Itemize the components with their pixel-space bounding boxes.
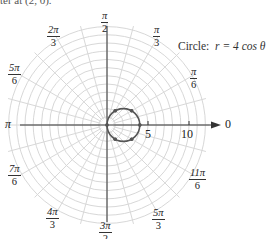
angle-label-3pi-2: 3π2 — [99, 220, 112, 239]
angle-label-pi: π — [5, 118, 11, 130]
data-point — [114, 138, 117, 141]
arrow-right-icon — [211, 122, 221, 129]
polar-plot — [0, 0, 275, 239]
angle-label-7pi-6: 7π6 — [8, 163, 21, 187]
angle-label-5pi-6: 5π6 — [8, 62, 21, 86]
data-point — [114, 109, 117, 112]
data-point — [130, 109, 133, 112]
angle-label-pi-3: π3 — [153, 24, 160, 48]
data-point — [130, 138, 133, 141]
radial-tick-label-10: 10 — [181, 128, 193, 140]
radial-tick-label-5: 5 — [145, 128, 151, 140]
angle-label-2pi-3: 2π3 — [47, 24, 60, 48]
data-point — [138, 123, 141, 126]
caption-equation: r = 4 cos θ — [215, 40, 265, 52]
angle-label-0: 0 — [225, 118, 231, 130]
angle-label-4pi-3: 4π3 — [46, 206, 59, 230]
angle-label-11pi-6: 11π6 — [189, 167, 206, 191]
curve-caption: Circle: r = 4 cos θ — [178, 40, 266, 52]
data-point — [105, 123, 108, 126]
angle-label-5pi-3: 5π3 — [152, 207, 165, 231]
caption-prefix: Circle: — [178, 40, 209, 52]
angle-label-pi-2: π2 — [101, 10, 108, 34]
angle-label-pi-6: π6 — [190, 66, 197, 90]
